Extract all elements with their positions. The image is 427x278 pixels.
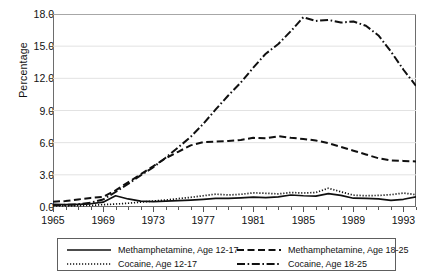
x-tick-mark (241, 207, 242, 210)
x-tick-label: 1969 (81, 214, 125, 226)
x-tick-mark (191, 207, 192, 210)
x-tick-mark (353, 207, 354, 212)
legend-entry: Cocaine, Age 18-25 (236, 257, 367, 271)
x-tick-mark (128, 207, 129, 210)
x-tick-mark (303, 207, 304, 212)
x-tick-mark (66, 207, 67, 210)
plot-area (53, 14, 416, 207)
x-tick-mark (403, 207, 404, 212)
legend-line-sample (236, 258, 282, 270)
x-tick-label: 1965 (31, 214, 75, 226)
x-tick-mark (391, 207, 392, 210)
x-tick-mark (78, 207, 79, 210)
chart-legend: Methamphetamine, Age 12-17Methamphetamin… (57, 238, 396, 271)
y-tick-mark (49, 207, 53, 208)
x-tick-mark (91, 207, 92, 210)
x-tick-mark (366, 207, 367, 210)
x-tick-mark (141, 207, 142, 210)
x-tick-mark (216, 207, 217, 210)
chart-figure: Percentage 0.03.06.09.012.015.018.0 1965… (0, 0, 427, 278)
x-tick-mark (341, 207, 342, 210)
x-tick-mark (103, 207, 104, 212)
x-tick-mark (278, 207, 279, 210)
x-tick-mark (253, 207, 254, 212)
x-tick-mark (228, 207, 229, 210)
x-tick-label: 1989 (331, 214, 375, 226)
x-tick-mark (328, 207, 329, 210)
data-series-line-4 (53, 17, 416, 205)
x-tick-mark (178, 207, 179, 210)
legend-label: Methamphetamine, Age 12-17 (118, 245, 239, 255)
legend-line-sample (66, 258, 112, 270)
data-series-line-2 (53, 136, 416, 201)
y-axis-label: Percentage (17, 15, 29, 125)
x-tick-mark (116, 207, 117, 210)
x-tick-label: 1981 (231, 214, 275, 226)
y-tick-label: 3.0 (10, 169, 54, 181)
legend-line-sample (66, 244, 112, 256)
legend-entry: Methamphetamine, Age 18-25 (236, 243, 409, 257)
legend-entry: Methamphetamine, Age 12-17 (66, 243, 239, 257)
x-tick-mark (166, 207, 167, 210)
x-tick-mark (153, 207, 154, 212)
x-tick-mark (416, 207, 417, 210)
x-tick-label: 1985 (281, 214, 325, 226)
x-tick-mark (53, 207, 54, 212)
legend-label: Cocaine, Age 12-17 (118, 259, 197, 269)
x-tick-mark (266, 207, 267, 210)
legend-label: Methamphetamine, Age 18-25 (288, 245, 409, 255)
legend-entry: Cocaine, Age 12-17 (66, 257, 197, 271)
x-tick-mark (316, 207, 317, 210)
x-tick-mark (291, 207, 292, 210)
x-tick-label: 1977 (181, 214, 225, 226)
y-tick-label: 6.0 (10, 137, 54, 149)
x-tick-label: 1993 (381, 214, 425, 226)
x-tick-mark (203, 207, 204, 212)
y-tick-label: 0.0 (10, 201, 54, 213)
x-tick-mark (378, 207, 379, 210)
legend-label: Cocaine, Age 18-25 (288, 259, 367, 269)
x-tick-label: 1973 (131, 214, 175, 226)
legend-line-sample (236, 244, 282, 256)
